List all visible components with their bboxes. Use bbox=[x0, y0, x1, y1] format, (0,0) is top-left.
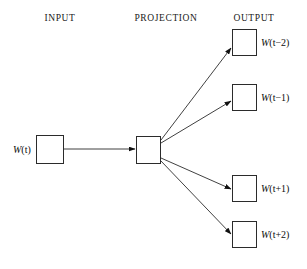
output-label-argument: (t+1) bbox=[269, 183, 289, 194]
edge-projection-to-output-3 bbox=[161, 158, 231, 189]
output-label-argument: (t+2) bbox=[269, 229, 289, 240]
edge-projection-to-output-1 bbox=[161, 48, 231, 140]
output-label-argument: (t−2) bbox=[269, 37, 289, 48]
projection-node-box bbox=[136, 136, 161, 164]
edge-projection-to-output-4 bbox=[161, 161, 231, 234]
output-node-label: W(t−1) bbox=[261, 93, 289, 103]
input-node-label: W(t) bbox=[13, 145, 31, 155]
output-node-label: W(t−2) bbox=[261, 38, 289, 48]
output-node-box bbox=[232, 29, 257, 56]
output-node-box bbox=[232, 84, 257, 111]
output-node-box bbox=[232, 175, 257, 202]
input-node-box bbox=[36, 135, 64, 164]
output-node-box bbox=[232, 221, 257, 248]
output-node-label: W(t+2) bbox=[261, 230, 289, 240]
output-label-argument: (t−1) bbox=[269, 92, 289, 103]
edge-projection-to-output-2 bbox=[161, 101, 231, 143]
output-node-label: W(t+1) bbox=[261, 184, 289, 194]
skipgram-diagram: INPUT PROJECTION OUTPUT W(t) W(t−2)W(t−1… bbox=[0, 0, 307, 269]
